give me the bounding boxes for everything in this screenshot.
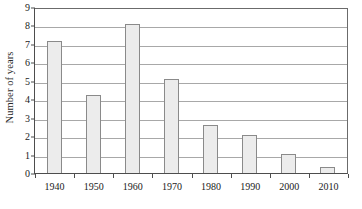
bar-slot (35, 9, 74, 173)
x-tick-mark (35, 174, 36, 178)
bar[interactable] (281, 154, 296, 173)
y-tick-label: 8 (25, 21, 30, 31)
bar-chart-figure: Number of years 0123456789 1940195019601… (0, 0, 362, 209)
x-tick-label: 1960 (113, 179, 152, 199)
bar[interactable] (86, 95, 101, 173)
x-tick-mark (309, 174, 310, 178)
x-tick-mark (270, 174, 271, 178)
bar-slot (152, 9, 191, 173)
x-tick-label: 1990 (231, 179, 270, 199)
bar[interactable] (164, 79, 179, 173)
x-tick-mark (348, 174, 349, 178)
x-tick-label: 1980 (192, 179, 231, 199)
y-axis-title: Number of years (0, 0, 18, 175)
bar-slot (308, 9, 347, 173)
plot-area (35, 8, 348, 174)
y-tick-label: 2 (25, 132, 30, 142)
x-tick-mark (231, 174, 232, 178)
y-tick-label: 7 (25, 40, 30, 50)
y-tick-label: 5 (25, 77, 30, 87)
y-tick-label: 9 (25, 3, 30, 13)
y-tick-label: 6 (25, 58, 30, 68)
bar-slot (191, 9, 230, 173)
y-axis-title-text: Number of years (4, 51, 15, 123)
y-tick-label: 0 (25, 169, 30, 179)
bar-slot (269, 9, 308, 173)
bar-slot (74, 9, 113, 173)
x-tick-mark (152, 174, 153, 178)
bar[interactable] (47, 41, 62, 173)
bar-slot (113, 9, 152, 173)
y-tick-label: 4 (25, 95, 30, 105)
bar[interactable] (125, 24, 140, 173)
x-tick-label: 1970 (152, 179, 191, 199)
bar-slot (230, 9, 269, 173)
bar[interactable] (320, 167, 335, 173)
y-tick-label: 1 (25, 151, 30, 161)
bar[interactable] (242, 135, 257, 173)
x-axis-tick-labels: 19401950196019701980199020002010 (35, 179, 348, 199)
x-tick-label: 1950 (74, 179, 113, 199)
bar[interactable] (203, 125, 218, 173)
y-axis-tick-labels: 0123456789 (18, 8, 32, 174)
x-tick-mark (113, 174, 114, 178)
x-tick-label: 2000 (270, 179, 309, 199)
x-tick-mark (74, 174, 75, 178)
x-tick-label: 1940 (35, 179, 74, 199)
x-tick-label: 2010 (309, 179, 348, 199)
x-tick-mark (192, 174, 193, 178)
y-tick-label: 3 (25, 114, 30, 124)
bar-series (35, 9, 347, 173)
